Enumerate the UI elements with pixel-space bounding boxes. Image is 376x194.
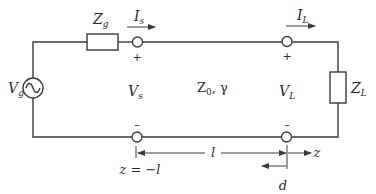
load-bottom-terminal-icon — [282, 132, 292, 142]
load-impedance-box-icon — [330, 72, 346, 103]
load-current-label: IL — [296, 7, 309, 25]
sending-position-label: z = −l — [118, 162, 160, 177]
length-label: l — [211, 145, 215, 160]
sending-top-terminal-icon — [133, 37, 143, 47]
line-parameters-label: Z0, γ — [197, 80, 228, 97]
distance-label: d — [279, 178, 287, 193]
load-impedance-label: ZL — [350, 80, 367, 98]
sending-minus-sign: – — [134, 118, 140, 131]
source-impedance-box-icon — [87, 34, 118, 50]
load-top-terminal-icon — [282, 37, 292, 47]
source-current-label: Is — [133, 8, 145, 26]
load-minus-sign: – — [284, 118, 290, 131]
source-bottom-wire — [33, 98, 132, 137]
load-plus-sign: + — [282, 50, 291, 63]
load-bottom-wire — [291, 103, 338, 137]
circuit-drawing: Vg Zg Is IL ZL Vs VL Z0, γ + – + – z = −… — [0, 0, 376, 194]
source-top-wire — [33, 42, 87, 78]
ac-voltage-source-icon — [23, 78, 43, 98]
transmission-line-diagram: Vg Zg Is IL ZL Vs VL Z0, γ + – + – z = −… — [0, 0, 376, 194]
load-top-wire — [292, 42, 338, 72]
sending-voltage-label: Vs — [128, 83, 143, 101]
source-impedance-label: Zg — [92, 11, 109, 29]
source-voltage-label: Vg — [8, 80, 24, 98]
sending-plus-sign: + — [132, 51, 141, 64]
source-wiring — [33, 42, 132, 137]
load-voltage-label: VL — [279, 83, 295, 101]
sending-bottom-terminal-icon — [132, 132, 142, 142]
z-axis-label: z — [313, 145, 321, 160]
